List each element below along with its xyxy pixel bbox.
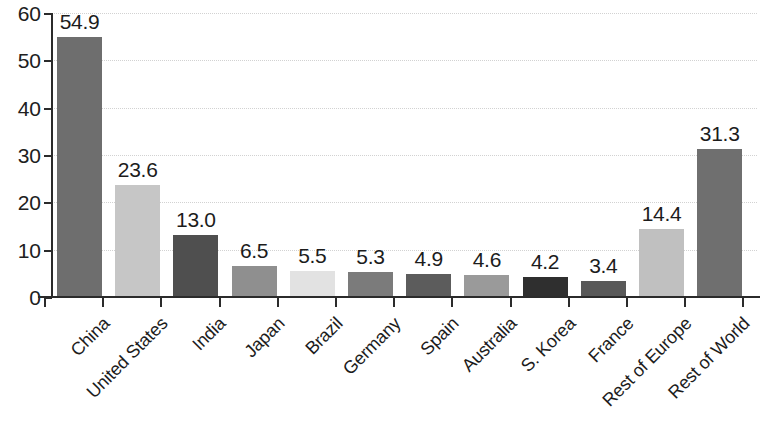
y-axis-tick-label: 20 [0, 192, 41, 213]
x-axis-tick [568, 298, 570, 307]
x-axis-tick [44, 298, 46, 307]
x-axis-tick [219, 298, 221, 307]
x-axis-tick [335, 298, 337, 307]
y-axis-tick [44, 108, 52, 110]
x-axis-tick [451, 298, 453, 307]
y-axis-tick [44, 155, 52, 157]
bar-value-label: 14.4 [622, 203, 702, 224]
bar [348, 272, 393, 297]
bar [639, 229, 684, 297]
y-axis-tick [44, 60, 52, 62]
x-axis-tick [393, 298, 395, 307]
x-axis-tick [626, 298, 628, 307]
y-axis-tick-label: 10 [0, 240, 41, 261]
bar [57, 37, 102, 297]
y-axis-tick [44, 202, 52, 204]
y-axis-tick-label: 50 [0, 50, 41, 71]
bar [406, 274, 451, 297]
x-axis-tick [102, 298, 104, 307]
y-axis-tick-label: 0 [0, 287, 41, 308]
bar-value-label: 31.3 [680, 123, 760, 144]
bar-chart: 54.923.613.06.55.55.34.94.64.23.414.431.… [0, 0, 761, 437]
x-axis-tick [277, 298, 279, 307]
bar [173, 235, 218, 297]
bar-value-label: 23.6 [98, 159, 178, 180]
bar [232, 266, 277, 297]
y-axis-tick-label: 30 [0, 145, 41, 166]
x-axis-tick [684, 298, 686, 307]
x-axis-line [38, 296, 760, 298]
bar-value-label: 13.0 [156, 209, 236, 230]
bar [115, 185, 160, 297]
y-axis-tick [44, 250, 52, 252]
bar [581, 281, 626, 297]
bar-value-label: 3.4 [563, 255, 643, 276]
bar [523, 277, 568, 297]
y-axis-tick-label: 40 [0, 98, 41, 119]
bar [464, 275, 509, 297]
x-axis-tick [510, 298, 512, 307]
y-axis-tick-label: 60 [0, 3, 41, 24]
x-axis-tick [742, 298, 744, 307]
y-axis-tick [44, 13, 52, 15]
bar [290, 271, 335, 297]
x-axis-tick [160, 298, 162, 307]
bar [697, 149, 742, 297]
